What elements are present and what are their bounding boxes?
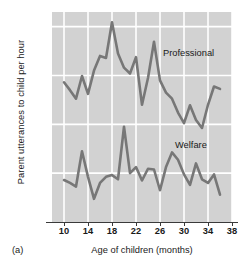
series-label-professional: Professional — [163, 48, 214, 58]
x-tick-label: 38 — [217, 226, 247, 236]
figure-panel: Parent utterances to child per hour 2004… — [0, 0, 247, 266]
series-label-welfare: Welfare — [175, 140, 207, 150]
x-axis-line — [46, 222, 238, 223]
x-axis-label: Age of children (months) — [52, 245, 232, 255]
panel-tag: (a) — [12, 245, 23, 255]
